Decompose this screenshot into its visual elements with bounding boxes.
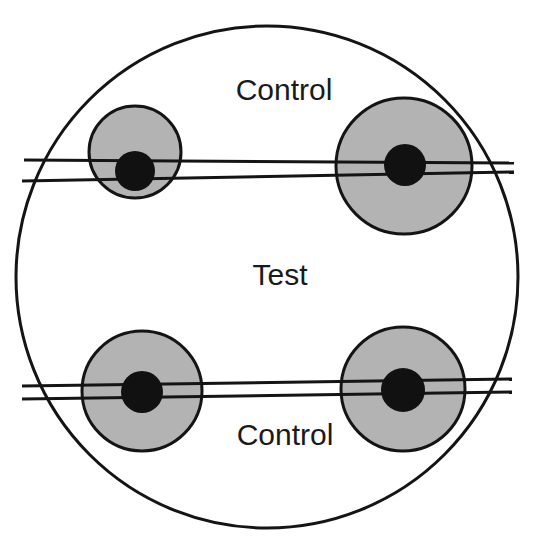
center-dot-bottom-left [121, 371, 163, 413]
center-dot-top-right [384, 144, 426, 186]
label-control-bottom: Control [237, 418, 334, 451]
diagram-canvas: Control Test Control [0, 0, 537, 554]
schematic-figure: Control Test Control [0, 0, 537, 554]
label-test-middle: Test [252, 258, 308, 291]
center-dot-top-left [115, 151, 155, 191]
center-dot-bottom-right [381, 368, 425, 412]
label-control-top: Control [236, 73, 333, 106]
